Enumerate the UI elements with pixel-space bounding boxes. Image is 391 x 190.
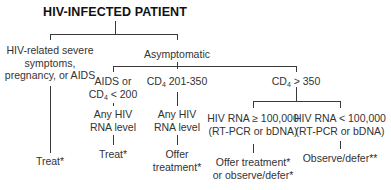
cd4-high-node: CD4 > 350 bbox=[272, 75, 321, 88]
rna-method: (RT-PCR or bDNA) bbox=[294, 125, 386, 138]
asymptomatic-node: Asymptomatic bbox=[144, 48, 210, 61]
cd4-mid-rna-node: Any HIV RNA level bbox=[154, 108, 200, 133]
symptomatic-outcome: Treat* bbox=[36, 155, 64, 168]
symptomatic-node: HIV-related severe symptoms, pregnancy, … bbox=[5, 44, 95, 82]
rna-threshold: HIV RNA < 100,000 bbox=[294, 112, 386, 125]
symptomatic-line3: pregnancy, or AIDS bbox=[5, 69, 95, 82]
high-rna-node: HIV RNA ≥ 100,000 (RT-PCR or bDNA) bbox=[207, 112, 299, 137]
cd4-mid-outcome: Offer treatment* bbox=[153, 148, 201, 173]
aids-line1: AIDS or bbox=[89, 75, 138, 88]
rna-line1: Any HIV bbox=[154, 108, 200, 121]
symptomatic-line2: symptoms, bbox=[5, 57, 95, 70]
cd-text: CD bbox=[89, 88, 104, 100]
outcome-line1: Offer treatment* bbox=[213, 156, 294, 169]
high-rna-outcome: Offer treatment* or observe/defer* bbox=[213, 156, 294, 181]
outcome-line2: treatment* bbox=[153, 161, 201, 174]
threshold-text: < 200 bbox=[108, 88, 138, 100]
rna-line1: Any HIV bbox=[90, 108, 136, 121]
low-rna-outcome: Observe/defer** bbox=[303, 152, 378, 165]
range-text: 201-350 bbox=[166, 75, 207, 87]
outcome-line2: or observe/defer* bbox=[213, 169, 294, 182]
symptomatic-line1: HIV-related severe bbox=[5, 44, 95, 57]
rna-line2: RNA level bbox=[90, 121, 136, 134]
hiv-treatment-flowchart: HIV-INFECTED PATIENT HIV-related severe … bbox=[0, 0, 391, 190]
outcome-line1: Offer bbox=[153, 148, 201, 161]
cd4-mid-node: CD4 201-350 bbox=[147, 75, 208, 88]
diagram-title: HIV-INFECTED PATIENT bbox=[43, 6, 187, 19]
rna-line2: RNA level bbox=[154, 121, 200, 134]
threshold-text: > 350 bbox=[291, 75, 321, 87]
aids-low-cd4-node: AIDS or CD4 < 200 bbox=[89, 75, 138, 100]
aids-rna-node: Any HIV RNA level bbox=[90, 108, 136, 133]
cd-text: CD bbox=[272, 75, 287, 87]
rna-method: (RT-PCR or bDNA) bbox=[207, 125, 299, 138]
rna-threshold: HIV RNA ≥ 100,000 bbox=[207, 112, 299, 125]
aids-outcome: Treat* bbox=[99, 148, 127, 161]
low-rna-node: HIV RNA < 100,000 (RT-PCR or bDNA) bbox=[294, 112, 386, 137]
cd-text: CD bbox=[147, 75, 162, 87]
cd4-below-200-label: CD4 < 200 bbox=[89, 88, 138, 101]
